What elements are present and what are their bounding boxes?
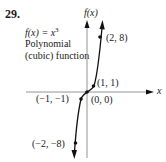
point-2-8 <box>98 35 102 39</box>
point-origin <box>85 90 89 94</box>
cubic-graph <box>0 0 166 162</box>
curve-bottom-arrow-icon <box>72 150 78 159</box>
point-label-neg2-neg8: (−2, −8) <box>32 139 65 149</box>
point-neg1-neg1 <box>79 97 83 101</box>
point-label-1-1: (1, 1) <box>97 78 119 88</box>
curve-top-arrow-icon <box>100 20 105 30</box>
point-label-origin: (0, 0) <box>91 95 113 105</box>
cubic-curve <box>75 28 103 152</box>
point-label-neg1-neg1: (−1, −1) <box>36 94 69 104</box>
point-1-1 <box>92 84 96 88</box>
point-label-2-8: (2, 8) <box>106 33 128 43</box>
x-axis-arrow-icon <box>146 90 154 95</box>
point-neg2-neg8 <box>74 141 78 145</box>
x-axis-label: x <box>157 86 161 96</box>
y-axis-arrow-icon <box>85 20 90 28</box>
